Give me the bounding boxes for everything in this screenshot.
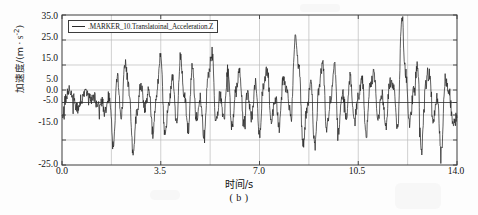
x-axis-title: 时间/s [0,176,478,191]
figure-caption: ( b ) [0,192,478,203]
figure-panel: 加速度/(m · s-2) 35.0 25.0 15.0 5.0 0.0 -5.… [0,0,478,215]
